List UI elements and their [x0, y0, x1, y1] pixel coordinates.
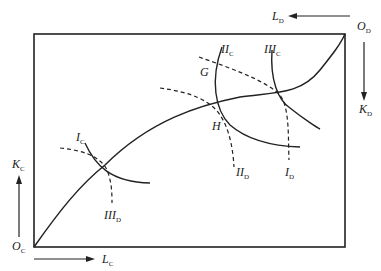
edgeworth-box-diagram: OC LC KC OD LD KD IC IIC IIIC ID IID III… — [0, 0, 381, 271]
isoquant-i-d-label: ID — [284, 165, 294, 181]
isoquant-ii-d-label: IID — [235, 165, 249, 181]
point-h-label: H — [211, 119, 222, 133]
k-d-label: KD — [358, 102, 372, 118]
isoquant-i-c-label: IC — [75, 130, 85, 146]
isoquant-iii-c — [272, 50, 320, 129]
k-c-arrowhead-icon — [16, 175, 22, 184]
isoquant-ii-d — [160, 88, 234, 167]
isoquant-ii-c-label: IIC — [220, 42, 234, 58]
isoquant-iii-d-label: IIID — [103, 208, 121, 224]
isoquant-iii-d — [60, 148, 112, 203]
k-d-arrowhead-icon — [361, 92, 367, 101]
l-d-arrowhead-icon — [288, 13, 297, 19]
l-d-label: LD — [271, 9, 284, 25]
isoquant-iii-c-label: IIIC — [263, 42, 281, 58]
origin-d-label: OD — [357, 19, 371, 35]
origin-c-label: OC — [12, 239, 26, 255]
l-c-arrowhead-icon — [86, 256, 95, 262]
k-c-label: KC — [11, 157, 25, 173]
point-g-label: G — [200, 65, 209, 79]
isoquant-i-c — [85, 143, 150, 183]
l-c-label: LC — [101, 252, 114, 268]
